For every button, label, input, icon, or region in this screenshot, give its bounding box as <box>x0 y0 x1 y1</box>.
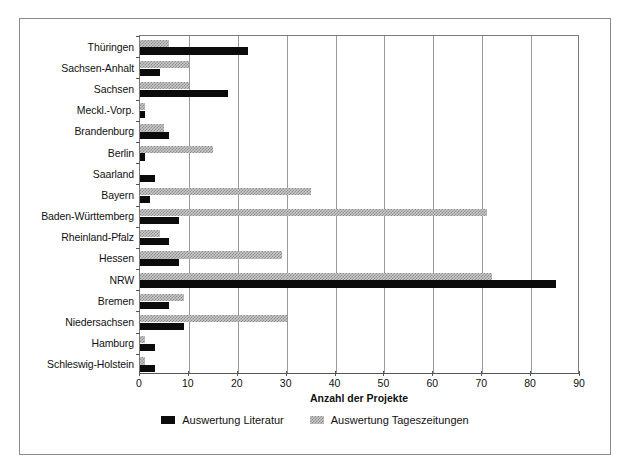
bar-tageszeitungen <box>140 103 145 110</box>
bar-literatur <box>140 238 169 245</box>
bar-tageszeitungen <box>140 294 184 301</box>
bar-literatur <box>140 365 155 372</box>
bar-row: NRW <box>140 269 578 290</box>
y-tick-mark <box>136 78 140 79</box>
bar-tageszeitungen <box>140 209 487 216</box>
legend-label-literatur: Auswertung Literatur <box>182 414 284 426</box>
category-label: Brandenburg <box>74 125 134 137</box>
y-tick-mark <box>136 163 140 164</box>
legend-swatch-tageszeitungen <box>310 416 324 424</box>
bar-tageszeitungen <box>140 230 160 237</box>
legend-item-tageszeitungen: Auswertung Tageszeitungen <box>310 414 469 426</box>
bar-rows: ThüringenSachsen-AnhaltSachsenMeckl.-Vor… <box>140 36 578 373</box>
plot-area: ThüringenSachsen-AnhaltSachsenMeckl.-Vor… <box>139 35 579 374</box>
y-tick-mark <box>136 248 140 249</box>
bar-literatur <box>140 69 160 76</box>
bar-row: Hamburg <box>140 333 578 354</box>
category-label: NRW <box>109 274 134 286</box>
bar-row: Bayern <box>140 184 578 205</box>
bar-tageszeitungen <box>140 61 189 68</box>
bar-row: Schleswig-Holstein <box>140 354 578 375</box>
bar-literatur <box>140 132 169 139</box>
bar-row: Sachsen-Anhalt <box>140 57 578 78</box>
bar-row: Bremen <box>140 290 578 311</box>
y-tick-mark <box>136 333 140 334</box>
category-label: Rheinland-Pfalz <box>61 231 134 243</box>
y-tick-mark <box>136 36 140 37</box>
category-label: Thüringen <box>88 41 134 53</box>
x-tick-mark-30 <box>286 371 287 376</box>
legend-label-tageszeitungen: Auswertung Tageszeitungen <box>331 414 469 426</box>
bar-tageszeitungen <box>140 273 492 280</box>
category-label: Saarland <box>93 168 134 180</box>
y-tick-mark <box>136 269 140 270</box>
x-tick-mark-70 <box>481 371 482 376</box>
legend-item-literatur: Auswertung Literatur <box>161 414 284 426</box>
x-tick-label-10: 10 <box>182 377 194 389</box>
bar-literatur <box>140 153 145 160</box>
category-label: Schleswig-Holstein <box>47 358 134 370</box>
bar-row: Rheinland-Pfalz <box>140 227 578 248</box>
y-tick-mark <box>136 121 140 122</box>
category-label: Meckl.-Vorp. <box>77 104 134 116</box>
bar-tageszeitungen <box>140 82 189 89</box>
x-tick-label-50: 50 <box>378 377 390 389</box>
category-label: Sachsen-Anhalt <box>61 62 134 74</box>
bar-literatur <box>140 111 145 118</box>
bar-literatur <box>140 90 228 97</box>
bar-row: Saarland <box>140 163 578 184</box>
x-tick-label-20: 20 <box>231 377 243 389</box>
x-tick-label-40: 40 <box>329 377 341 389</box>
x-tick-label-60: 60 <box>426 377 438 389</box>
category-label: Niedersachsen <box>65 316 134 328</box>
x-tick-label-30: 30 <box>280 377 292 389</box>
y-tick-mark <box>136 100 140 101</box>
bar-literatur <box>140 47 248 54</box>
x-tick-label-0: 0 <box>136 377 142 389</box>
bar-tageszeitungen <box>140 124 164 131</box>
x-tick-label-80: 80 <box>524 377 536 389</box>
bar-literatur <box>140 280 556 287</box>
bar-literatur <box>140 302 169 309</box>
bar-row: Niedersachsen <box>140 311 578 332</box>
chart-legend: Auswertung Literatur Auswertung Tageszei… <box>20 414 610 426</box>
bar-row: Hessen <box>140 248 578 269</box>
y-tick-mark <box>136 206 140 207</box>
x-tick-mark-0 <box>139 371 140 376</box>
y-tick-mark <box>136 142 140 143</box>
category-label: Hamburg <box>92 337 135 349</box>
bar-tageszeitungen <box>140 336 145 343</box>
x-tick-mark-10 <box>188 371 189 376</box>
category-label: Bayern <box>101 189 134 201</box>
bar-tageszeitungen <box>140 315 287 322</box>
bar-row: Thüringen <box>140 36 578 57</box>
category-label: Hessen <box>99 252 134 264</box>
legend-swatch-literatur <box>161 416 175 424</box>
bar-tageszeitungen <box>140 357 145 364</box>
bar-row: Meckl.-Vorp. <box>140 100 578 121</box>
y-tick-mark <box>136 290 140 291</box>
x-tick-mark-80 <box>530 371 531 376</box>
x-tick-mark-60 <box>432 371 433 376</box>
x-tick-mark-50 <box>383 371 384 376</box>
category-label: Baden-Württemberg <box>41 210 134 222</box>
x-tick-label-70: 70 <box>475 377 487 389</box>
bar-literatur <box>140 344 155 351</box>
bar-literatur <box>140 259 179 266</box>
bar-tageszeitungen <box>140 251 282 258</box>
bar-row: Baden-Württemberg <box>140 206 578 227</box>
bar-row: Berlin <box>140 142 578 163</box>
y-tick-mark <box>136 227 140 228</box>
x-tick-mark-40 <box>335 371 336 376</box>
x-axis-ticks: 0102030405060708090 <box>139 377 579 391</box>
bar-literatur <box>140 323 184 330</box>
bar-row: Brandenburg <box>140 121 578 142</box>
bar-tageszeitungen <box>140 188 311 195</box>
y-tick-mark <box>136 354 140 355</box>
y-tick-mark <box>136 311 140 312</box>
category-label: Berlin <box>108 147 134 159</box>
bar-literatur <box>140 196 150 203</box>
chart-figure: ThüringenSachsen-AnhaltSachsenMeckl.-Vor… <box>19 18 611 455</box>
bar-row: Sachsen <box>140 78 578 99</box>
x-tick-mark-20 <box>237 371 238 376</box>
